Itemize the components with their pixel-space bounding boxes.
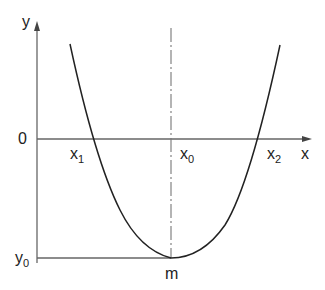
vertex-y-label: y0 — [15, 250, 29, 269]
parabola-curve — [70, 44, 280, 258]
x-axis-label: x — [301, 146, 309, 162]
diagram-canvas — [0, 0, 325, 290]
root2-label: x2 — [267, 146, 281, 165]
minimum-label: m — [165, 266, 178, 282]
y-axis-label: y — [22, 14, 30, 30]
x-axis-arrow-icon — [302, 136, 312, 142]
origin-label: 0 — [18, 131, 27, 147]
root1-label: x1 — [70, 146, 84, 165]
vertex-x-label: x0 — [180, 146, 194, 165]
y-axis-arrow-icon — [34, 21, 40, 31]
